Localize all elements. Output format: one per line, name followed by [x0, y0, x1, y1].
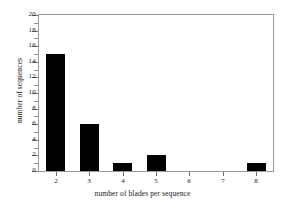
y-axis-minor-tick [34, 101, 38, 102]
x-axis-tick [56, 172, 57, 176]
bars-container [39, 15, 273, 171]
y-axis-title: number of sequences [15, 31, 24, 151]
bar [46, 54, 65, 171]
x-axis-tick-label: 2 [44, 177, 68, 185]
y-axis-minor-tick [34, 54, 38, 55]
bar [247, 163, 266, 171]
x-axis-tick-label: 7 [211, 177, 235, 185]
bar [147, 155, 166, 171]
y-axis-minor-tick [34, 23, 38, 24]
x-axis-tick [223, 172, 224, 176]
y-axis-minor-tick [34, 85, 38, 86]
bar [113, 163, 132, 171]
x-axis-tick-label: 6 [177, 177, 201, 185]
y-axis-tick-label: 20 [10, 11, 36, 18]
y-axis-tick-label: 2 [10, 151, 36, 158]
bar [80, 124, 99, 171]
x-axis-title: number of blades per sequence [0, 189, 285, 198]
x-axis-tick [156, 172, 157, 176]
y-axis-tick-label: 0 [10, 167, 36, 174]
x-axis-tick-label: 8 [244, 177, 268, 185]
y-axis-minor-tick [34, 38, 38, 39]
bar-chart-figure: 02468101214161820 2345678 number of blad… [0, 0, 285, 206]
x-axis-tick-label: 3 [77, 177, 101, 185]
x-axis-tick-label: 5 [144, 177, 168, 185]
y-axis-minor-tick [34, 70, 38, 71]
x-axis-tick-label: 4 [111, 177, 135, 185]
x-axis-tick [256, 172, 257, 176]
y-axis-minor-tick [34, 148, 38, 149]
y-axis-minor-tick [34, 116, 38, 117]
x-axis-tick [89, 172, 90, 176]
x-axis-tick [189, 172, 190, 176]
y-axis-minor-tick [34, 132, 38, 133]
y-axis-minor-tick [34, 163, 38, 164]
x-axis-tick [123, 172, 124, 176]
